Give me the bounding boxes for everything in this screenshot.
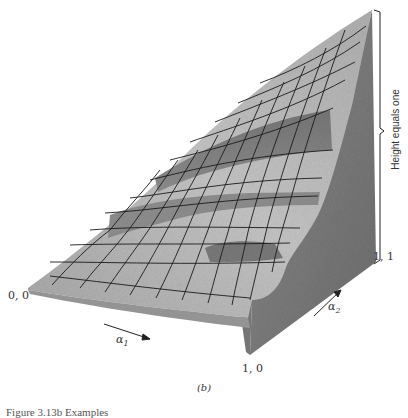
height-label: Height equals one xyxy=(390,85,401,175)
height-bracket xyxy=(374,10,384,264)
alpha1-subscript: 1 xyxy=(123,339,128,348)
corner-label-x-end: 1, 0 xyxy=(242,362,263,375)
corner-label-origin: 0, 0 xyxy=(8,289,29,302)
figure-caption: Figure 3.13b Examples xyxy=(6,406,108,418)
alpha1-label: α1 xyxy=(116,333,129,348)
panel-label: (b) xyxy=(0,382,408,393)
corner-label-xy-end: 1, 1 xyxy=(373,250,394,263)
alpha2-subscript: 2 xyxy=(335,306,340,315)
alpha2-label: α2 xyxy=(328,300,341,315)
